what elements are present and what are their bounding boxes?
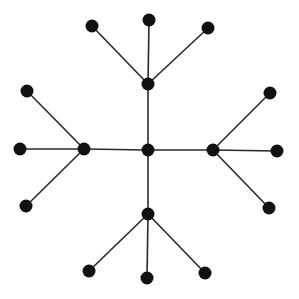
tree-diagram (0, 0, 299, 299)
node-center (142, 144, 155, 157)
node-hub-bottom (142, 208, 155, 221)
node-leaf-bottom-mid (141, 272, 154, 285)
edge-hub-left-leaf-left-top (27, 91, 84, 149)
node-hub-left (78, 143, 91, 156)
edge-hub-top-leaf-top-right (148, 28, 208, 84)
edge-hub-right-leaf-right-bottom (213, 150, 269, 208)
node-leaf-right-bottom (263, 202, 276, 215)
edge-center-hub-left (84, 149, 148, 150)
node-leaf-left-bottom (20, 200, 33, 213)
edge-hub-left-leaf-left-bottom (26, 149, 84, 206)
edge-hub-bottom-leaf-bottom-mid (147, 214, 148, 278)
node-leaf-bottom-left (83, 265, 96, 278)
node-leaf-right-mid (271, 145, 284, 158)
node-leaf-left-mid (14, 143, 27, 156)
edge-hub-bottom-leaf-bottom-left (89, 214, 148, 271)
node-leaf-bottom-right (199, 267, 212, 280)
node-hub-right (207, 144, 220, 157)
edge-hub-top-leaf-top-mid (148, 20, 149, 84)
node-hub-top (142, 78, 155, 91)
node-leaf-right-top (264, 87, 277, 100)
edge-hub-right-leaf-right-mid (213, 150, 277, 151)
node-leaf-top-mid (143, 14, 156, 27)
edge-hub-bottom-leaf-bottom-right (148, 214, 205, 273)
edge-hub-top-leaf-top-left (92, 26, 148, 84)
edge-hub-right-leaf-right-top (213, 93, 270, 150)
node-leaf-top-left (86, 20, 99, 33)
node-leaf-top-right (202, 22, 215, 35)
node-leaf-left-top (21, 85, 34, 98)
